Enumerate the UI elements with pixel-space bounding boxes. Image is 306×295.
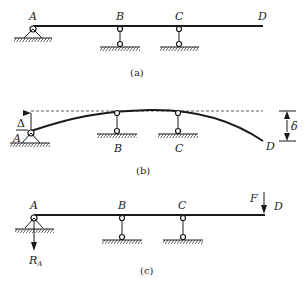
label-ra: RA	[28, 254, 42, 268]
link-support-b	[100, 27, 140, 52]
label-c: C	[175, 10, 184, 23]
beam-diagram: A B C D (a) Δ	[0, 0, 306, 295]
deflected-beam	[31, 110, 263, 141]
label-b: B	[117, 199, 126, 212]
label-a: A	[29, 199, 38, 212]
caption-c: (c)	[140, 265, 154, 276]
label-c: C	[178, 199, 187, 212]
force-arrowhead	[261, 205, 267, 214]
label-d: D	[257, 10, 267, 23]
caption-a: (a)	[130, 67, 144, 78]
figure-a: A B C D (a)	[14, 10, 267, 78]
caption-b: (b)	[136, 165, 150, 176]
link-support-c	[163, 216, 203, 245]
figure-c: RA F A B C D (c)	[15, 192, 283, 276]
link-support-b	[102, 216, 142, 245]
label-delta: δ	[291, 120, 298, 133]
label-b: B	[115, 10, 124, 23]
reaction-arrowhead	[31, 242, 37, 251]
label-a: A	[12, 132, 21, 145]
label-d: D	[265, 140, 275, 153]
label-c: C	[175, 142, 184, 155]
pin-support-a	[14, 26, 52, 42]
link-support-c	[160, 27, 199, 52]
link-support-b	[97, 111, 137, 139]
figure-b: Δ δ A B C D (b)	[10, 110, 298, 176]
label-a: A	[28, 10, 37, 23]
label-delta-small: Δ	[17, 117, 25, 130]
label-f: F	[249, 192, 258, 205]
label-d: D	[273, 200, 283, 213]
link-support-c	[158, 111, 198, 139]
label-b: B	[113, 142, 122, 155]
